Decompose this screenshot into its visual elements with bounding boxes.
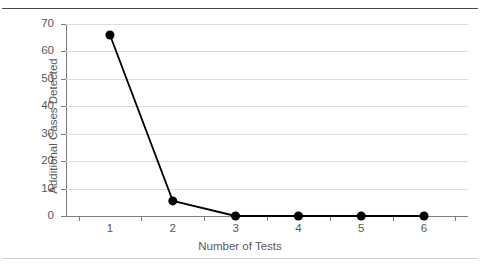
y-axis-tick	[61, 106, 66, 107]
y-axis-tick	[61, 134, 66, 135]
x-axis-tick	[204, 216, 205, 221]
x-axis-tick	[267, 216, 268, 221]
y-axis-tick	[61, 161, 66, 162]
x-axis-tick	[141, 216, 142, 221]
y-axis-title: Additional Cases Detected	[47, 26, 59, 226]
x-axis-tick-label: 6	[409, 222, 439, 234]
gridline	[66, 134, 468, 135]
gridline	[66, 189, 468, 190]
x-axis-tick	[79, 216, 80, 221]
x-axis-tick	[330, 216, 331, 221]
x-axis-tick	[393, 216, 394, 221]
y-axis-tick	[61, 79, 66, 80]
x-axis-tick-label: 5	[346, 222, 376, 234]
chart-figure: 010203040506070 123456 Number of Tests A…	[0, 0, 480, 269]
y-axis-tick	[61, 189, 66, 190]
gridline	[66, 24, 468, 25]
y-axis-tick	[61, 24, 66, 25]
x-axis-tick-label: 1	[95, 222, 125, 234]
y-axis-tick	[61, 216, 66, 217]
plot-area	[66, 24, 468, 216]
gridline	[66, 161, 468, 162]
figure-bottom-rule	[2, 258, 478, 259]
y-axis-line	[66, 24, 67, 216]
gridline	[66, 51, 468, 52]
x-axis-tick	[455, 216, 456, 221]
x-axis-tick-label: 3	[221, 222, 251, 234]
figure-top-rule	[2, 8, 478, 9]
x-axis-tick-label: 2	[158, 222, 188, 234]
gridline	[66, 106, 468, 107]
y-axis-tick	[61, 51, 66, 52]
x-axis-title: Number of Tests	[0, 240, 480, 252]
x-axis-tick-label: 4	[283, 222, 313, 234]
gridline	[66, 79, 468, 80]
